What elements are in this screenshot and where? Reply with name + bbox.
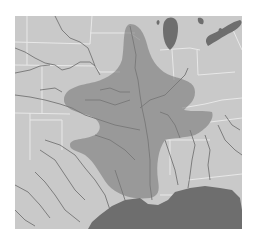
- map-canvas: [0, 0, 253, 238]
- range-map: [0, 0, 253, 238]
